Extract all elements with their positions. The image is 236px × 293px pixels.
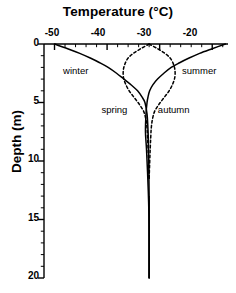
curve-spring bbox=[123, 44, 149, 179]
plot-area bbox=[0, 0, 236, 293]
curve-summer bbox=[145, 44, 225, 278]
data-curves bbox=[55, 44, 226, 278]
axes bbox=[38, 44, 228, 278]
curve-autumn bbox=[149, 44, 175, 179]
curve-winter bbox=[55, 44, 150, 278]
temperature-depth-figure: Temperature (°C) Depth (m) -50 -40 -30 -… bbox=[0, 0, 236, 293]
